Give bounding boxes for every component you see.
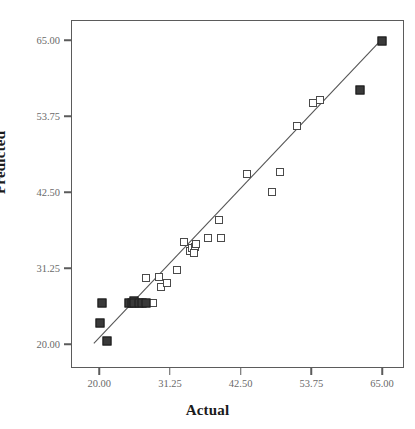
data-point bbox=[268, 188, 276, 196]
data-point bbox=[102, 336, 111, 345]
x-tick-mark bbox=[240, 368, 242, 375]
data-point bbox=[217, 234, 225, 242]
x-tick-mark bbox=[169, 368, 171, 375]
y-tick-label: 20.00 bbox=[0, 339, 60, 350]
y-tick-label: 53.75 bbox=[0, 111, 60, 122]
data-point bbox=[293, 122, 301, 130]
data-point bbox=[98, 299, 107, 308]
data-point bbox=[149, 299, 157, 307]
data-point bbox=[204, 234, 212, 242]
scatter-plot-figure: 20.0031.2542.5053.7565.00 20.0031.2542.5… bbox=[0, 0, 415, 429]
data-layer bbox=[72, 21, 403, 367]
data-point bbox=[180, 238, 188, 246]
x-tick-label: 31.25 bbox=[158, 378, 182, 389]
data-point bbox=[316, 96, 324, 104]
y-tick-label: 65.00 bbox=[0, 35, 60, 46]
y-tick-label: 31.25 bbox=[0, 263, 60, 274]
data-point bbox=[243, 170, 251, 178]
x-tick-mark bbox=[381, 368, 383, 375]
x-tick-mark bbox=[311, 368, 313, 375]
x-axis-title: Actual bbox=[0, 402, 415, 419]
x-tick-mark bbox=[99, 368, 101, 375]
x-tick-label: 20.00 bbox=[87, 378, 111, 389]
data-point bbox=[190, 249, 198, 257]
data-point bbox=[355, 85, 364, 94]
y-tick-mark bbox=[64, 192, 71, 194]
y-tick-mark bbox=[64, 116, 71, 118]
data-point bbox=[155, 273, 163, 281]
y-tick-mark bbox=[64, 268, 71, 270]
data-point bbox=[173, 266, 181, 274]
x-tick-label: 53.75 bbox=[300, 378, 324, 389]
data-point bbox=[163, 279, 171, 287]
data-point bbox=[276, 168, 284, 176]
data-point bbox=[378, 36, 387, 45]
data-point bbox=[96, 319, 105, 328]
y-tick-label: 42.50 bbox=[0, 187, 60, 198]
plot-area bbox=[71, 20, 404, 368]
y-tick-mark bbox=[64, 40, 71, 42]
data-point bbox=[142, 274, 150, 282]
x-tick-label: 65.00 bbox=[370, 378, 394, 389]
data-point bbox=[192, 240, 200, 248]
y-tick-mark bbox=[64, 344, 71, 346]
data-point bbox=[215, 216, 223, 224]
data-point bbox=[141, 299, 150, 308]
x-tick-label: 42.50 bbox=[229, 378, 253, 389]
y-axis-title: Predicted bbox=[0, 131, 9, 194]
